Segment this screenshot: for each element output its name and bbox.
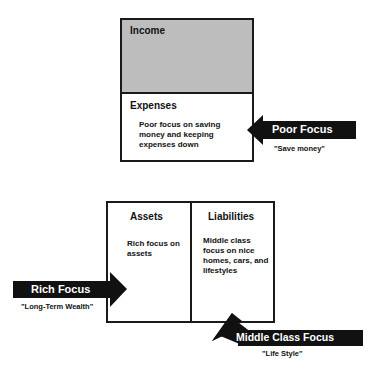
poor-focus-caption: "Save money": [274, 144, 325, 153]
middle-class-focus-label: Middle Class Focus: [236, 331, 334, 343]
middle-class-focus-caption: "Life Style": [262, 349, 302, 358]
balance-sheet: Assets Rich focus on assets Liabilities …: [106, 201, 275, 323]
rich-arrow-head: [110, 272, 127, 307]
balance-divider: [190, 203, 192, 321]
income-statement: Income Expenses Poor focus on saving mon…: [120, 18, 254, 162]
liabilities-text: Middle class focus on nice homes, cars, …: [203, 236, 271, 276]
poor-arrow-head: [247, 115, 263, 145]
assets-text: Rich focus on assets: [127, 239, 187, 259]
rich-focus-label: Rich Focus: [31, 283, 90, 295]
liabilities-label: Liabilities: [208, 211, 254, 222]
rich-focus-caption: "Long-Term Wealth": [21, 302, 93, 311]
income-label: Income: [130, 25, 165, 36]
expenses-label: Expenses: [130, 100, 177, 111]
expenses-text: Poor focus on saving money and keeping e…: [139, 120, 239, 150]
assets-label: Assets: [130, 211, 163, 222]
poor-focus-label: Poor Focus: [272, 123, 333, 135]
